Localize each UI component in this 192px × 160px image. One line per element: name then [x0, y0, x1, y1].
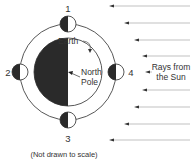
moon-2: [12, 64, 28, 80]
moon-4-label: 4: [128, 67, 133, 78]
rays-label-line1: Rays from: [152, 62, 191, 72]
north-pole-label-line1: North: [81, 67, 102, 77]
north-pole-label-line2: Pole: [81, 77, 98, 87]
moon-phases-diagram: Earth North Pole 1 2 3 4: [0, 0, 192, 160]
moon-1-label: 1: [65, 3, 70, 14]
earth-dark-side: [34, 38, 68, 106]
moon-2-label: 2: [5, 67, 10, 78]
earth-label: Earth: [58, 36, 79, 46]
moon-1: [60, 16, 76, 32]
moon-4: [108, 64, 124, 80]
moon-3-label: 3: [65, 133, 70, 144]
caption: (Not drawn to scale): [30, 150, 98, 159]
moon-3: [60, 112, 76, 128]
rays-label-line2: the Sun: [156, 72, 186, 82]
